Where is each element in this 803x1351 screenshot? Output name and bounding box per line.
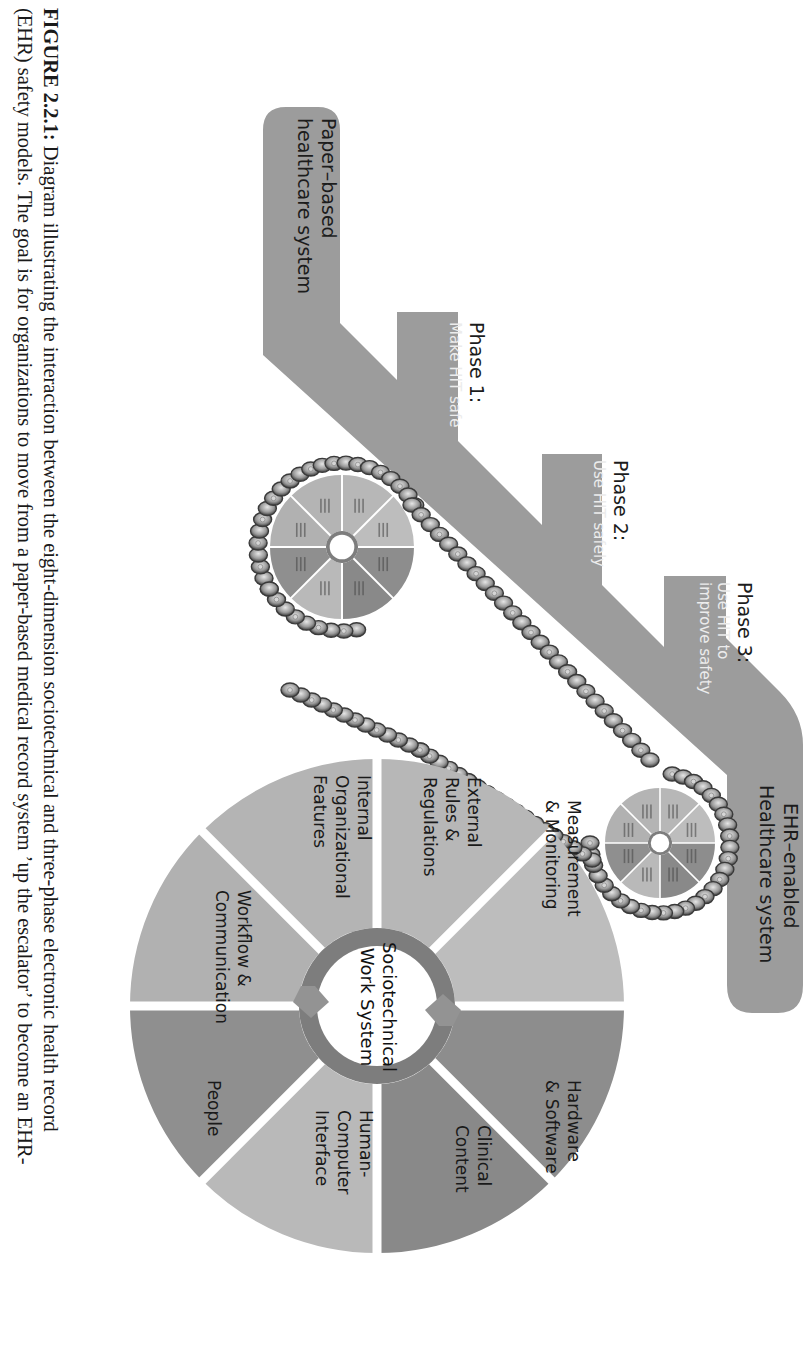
mini-sector-text (382, 557, 384, 571)
chain-pin (726, 856, 731, 861)
phase-2-subtitle: Use HIT safely (590, 460, 608, 567)
chain-pin (709, 793, 714, 798)
sector-label-line: Regulations (420, 777, 440, 877)
chain-pin (374, 728, 379, 733)
mini-sector-text (320, 499, 322, 513)
chain-pin (588, 841, 593, 846)
mini-sector-text (328, 581, 330, 595)
small-wheel-phase3 (604, 787, 716, 899)
mini-sector-text (628, 823, 630, 837)
mini-sector-text (378, 557, 380, 571)
phase-2-label: Phase 2: Use HIT safely (590, 460, 632, 567)
sector-label-line: Hardware (564, 1080, 584, 1162)
chain-pin (638, 748, 643, 753)
mini-sector-text (324, 581, 326, 595)
chain-pin (293, 614, 298, 619)
chain-pin (308, 467, 313, 472)
mini-sector-text (632, 823, 634, 837)
start-box-line1: Paper–based (318, 118, 340, 239)
chain-pin (565, 669, 570, 674)
mini-sector-text (296, 523, 298, 537)
mini-sector-text (691, 849, 693, 863)
mini-sector-text (642, 804, 644, 818)
chain-pin (418, 748, 423, 753)
svg-text:FIGURE 2.2.1: Diagram illustra: FIGURE 2.2.1: Diagram illustrating the i… (39, 8, 62, 1132)
phase-3-subtitle-line1: Use HIT to (714, 582, 732, 659)
sector-label-line: Features (310, 775, 330, 848)
sector-label-line: External (464, 777, 484, 848)
mini-sector-text (624, 823, 626, 837)
mini-sector-text (320, 581, 322, 595)
chain-pin (455, 552, 460, 557)
mini-sector-text (668, 804, 670, 818)
mini-sector-text (386, 557, 388, 571)
figure-label: FIGURE 2.2.1: (40, 8, 62, 141)
phase-2-title: Phase 2: (610, 460, 632, 541)
chain-pin (618, 898, 623, 903)
chain-pin (419, 512, 424, 517)
mini-sector-text (687, 823, 689, 837)
chain-pin (703, 894, 708, 899)
mini-sector-text (650, 868, 652, 882)
mini-sector-text (695, 823, 697, 837)
mini-sector-text (378, 523, 380, 537)
chain-pin (602, 709, 607, 714)
sector-label-line: Measurement (564, 800, 584, 917)
mini-sector-text (304, 523, 306, 537)
chain-pin (492, 591, 497, 596)
mini-sector-text (362, 581, 364, 595)
mini-sector-text (672, 868, 674, 882)
mini-sector-text (642, 868, 644, 882)
chain-pin (256, 541, 261, 546)
chain-pin (398, 484, 403, 489)
sector-label-line: Clinical (474, 1125, 494, 1186)
chain-link (260, 582, 278, 596)
start-box-line2: healthcare system (294, 118, 316, 294)
phase-1-title: Phase 1: (466, 322, 488, 403)
figure-caption: FIGURE 2.2.1: Diagram illustrating the i… (13, 8, 62, 1165)
mini-sector-text (358, 499, 360, 513)
chain-pin (353, 718, 358, 723)
mini-sector-text (676, 868, 678, 882)
mini-sector-text (691, 823, 693, 837)
chain-pin (274, 597, 279, 602)
sector-label-line: Computer (334, 1110, 354, 1195)
sector-label-line: People (204, 1080, 224, 1136)
center-line2: Work System (357, 948, 378, 1066)
phase-1-label: Phase 1: Make HIT safe (446, 322, 488, 427)
phase-3-title: Phase 3: (734, 582, 756, 663)
chain-pin (721, 812, 726, 817)
chain-pin (316, 625, 321, 630)
mini-sector-text (362, 499, 364, 513)
phase-3-subtitle-line2: improve safety (696, 582, 714, 695)
end-box-line2: Healthcare system (756, 785, 778, 963)
mini-sector-text (672, 804, 674, 818)
chain-link (641, 753, 659, 767)
chain-pin (474, 571, 479, 576)
caption-line1: Diagram illustrating the interaction bet… (39, 141, 62, 1132)
sector-label-line: Interface (312, 1110, 332, 1186)
end-box-line1: EHR–enabled (780, 803, 802, 928)
sector-label: People (204, 1080, 224, 1136)
mini-sector-text (304, 557, 306, 571)
chain-pin (727, 834, 732, 839)
center-line1: Sociotechnical (379, 942, 400, 1072)
sector-label-line: & Monitoring (542, 800, 562, 910)
chain-pin (288, 688, 293, 693)
chain-pin (309, 698, 314, 703)
chain-pin (332, 461, 337, 466)
mini-sector-text (300, 557, 302, 571)
mini-sector-text (358, 581, 360, 595)
chain-pin (396, 738, 401, 743)
wheel-center-label: Sociotechnical Work System (357, 942, 400, 1072)
mini-sector-text (382, 523, 384, 537)
sector-label-line: Organizational (332, 775, 352, 899)
mini-sector-text (386, 523, 388, 537)
mini-sector-text (328, 499, 330, 513)
chain-pin (437, 532, 442, 537)
mini-sector-text (628, 849, 630, 863)
mini-sector-text (324, 499, 326, 513)
chain-pin (271, 496, 276, 501)
figure-canvas: Paper–based healthcare system EHR–enable… (0, 0, 803, 1351)
chain-pin (331, 708, 336, 713)
